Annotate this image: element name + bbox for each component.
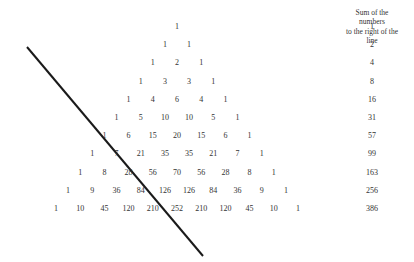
triangle-cell: 21 (209, 150, 217, 158)
triangle-cell: 1 (151, 59, 155, 67)
triangle-cell: 120 (123, 205, 135, 213)
triangle-cell: 210 (147, 205, 159, 213)
triangle-cell: 10 (161, 114, 169, 122)
triangle-cell: 126 (183, 187, 195, 195)
row-sum: 8 (370, 78, 374, 86)
triangle-cell: 1 (199, 59, 203, 67)
triangle-cell: 45 (100, 205, 108, 213)
triangle-cell: 20 (173, 132, 181, 140)
row-sum: 57 (368, 132, 376, 140)
triangle-cell: 1 (236, 114, 240, 122)
row-sum: 163 (366, 169, 378, 177)
triangle-cell: 1 (284, 187, 288, 195)
triangle-cell: 9 (90, 187, 94, 195)
triangle-cell: 56 (149, 169, 157, 177)
triangle-cell: 1 (248, 132, 252, 140)
triangle-cell: 28 (125, 169, 133, 177)
row-sum: 1 (370, 23, 374, 31)
triangle-cell: 15 (149, 132, 157, 140)
triangle-cell: 7 (236, 150, 240, 158)
triangle-cell: 35 (185, 150, 193, 158)
triangle-cell: 1 (187, 41, 191, 49)
triangle-cell: 5 (211, 114, 215, 122)
triangle-cell: 1 (139, 78, 143, 86)
triangle-cell: 4 (199, 96, 203, 104)
triangle-cell: 56 (197, 169, 205, 177)
triangle-cell: 1 (272, 169, 276, 177)
triangle-cell: 84 (137, 187, 145, 195)
triangle-cell: 126 (159, 187, 171, 195)
triangle-cell: 1 (296, 205, 300, 213)
triangle-cell: 36 (113, 187, 121, 195)
triangle-cell: 5 (139, 114, 143, 122)
triangle-cell: 6 (127, 132, 131, 140)
triangle-cell: 2 (175, 59, 179, 67)
triangle-cell: 6 (223, 132, 227, 140)
triangle-cell: 210 (195, 205, 207, 213)
triangle-cell: 6 (175, 96, 179, 104)
triangle-cell: 1 (54, 205, 58, 213)
triangle-cell: 15 (197, 132, 205, 140)
triangle-cell: 36 (234, 187, 242, 195)
row-sum: 16 (368, 96, 376, 104)
triangle-cell: 1 (223, 96, 227, 104)
row-sum: 99 (368, 150, 376, 158)
triangle-cell: 1 (260, 150, 264, 158)
triangle-cell: 1 (78, 169, 82, 177)
triangle-cell: 8 (248, 169, 252, 177)
row-sum: 386 (366, 205, 378, 213)
triangle-cell: 84 (209, 187, 217, 195)
triangle-cell: 21 (137, 150, 145, 158)
triangle-cell: 4 (151, 96, 155, 104)
diagonal-divider-line (0, 0, 414, 262)
triangle-cell: 8 (102, 169, 106, 177)
triangle-cell: 28 (221, 169, 229, 177)
triangle-cell: 70 (173, 169, 181, 177)
triangle-cell: 1 (175, 23, 179, 31)
row-sum: 256 (366, 187, 378, 195)
triangle-cell: 1 (127, 96, 131, 104)
triangle-cell: 1 (66, 187, 70, 195)
triangle-cell: 35 (161, 150, 169, 158)
triangle-cell: 1 (115, 114, 119, 122)
row-sum: 2 (370, 41, 374, 49)
triangle-cell: 1 (102, 132, 106, 140)
row-sum: 31 (368, 114, 376, 122)
triangle-cell: 1 (90, 150, 94, 158)
triangle-cell: 3 (187, 78, 191, 86)
triangle-cell: 10 (185, 114, 193, 122)
triangle-cell: 3 (163, 78, 167, 86)
triangle-cell: 9 (260, 187, 264, 195)
triangle-cell: 10 (270, 205, 278, 213)
triangle-cell: 252 (171, 205, 183, 213)
triangle-cell: 120 (219, 205, 231, 213)
triangle-cell: 10 (76, 205, 84, 213)
triangle-cell: 45 (246, 205, 254, 213)
row-sum: 4 (370, 59, 374, 67)
triangle-cell: 1 (163, 41, 167, 49)
triangle-cell: 1 (211, 78, 215, 86)
triangle-cell: 7 (115, 150, 119, 158)
